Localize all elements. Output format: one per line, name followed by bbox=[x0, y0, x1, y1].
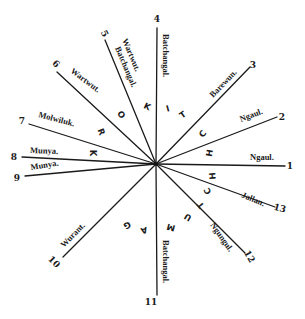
ray-number: 3 bbox=[250, 60, 256, 70]
radial-diagram: 12345678910111213 Ngaul.Ngaul.Barewun.Ba… bbox=[0, 0, 305, 319]
arc-letter: H bbox=[204, 149, 215, 158]
ray-label: Molwiluk. bbox=[37, 109, 75, 128]
arc-letter: U bbox=[182, 211, 193, 223]
arc-letter: O bbox=[115, 109, 127, 121]
ray-line-3 bbox=[156, 67, 250, 164]
arc-letter: T bbox=[177, 109, 188, 121]
ray-label: Ngaul. bbox=[238, 106, 264, 124]
ray-line-10 bbox=[63, 164, 156, 257]
ray-number: 9 bbox=[14, 173, 20, 183]
ray-label: Jallan. bbox=[240, 190, 266, 209]
arc-letter: M bbox=[165, 222, 176, 234]
center-hub bbox=[154, 162, 158, 166]
ray-label: Wartwut. bbox=[69, 66, 103, 95]
arc-letter: C bbox=[197, 128, 209, 139]
ray-label: Wurant. bbox=[58, 220, 87, 249]
ray-line-4 bbox=[156, 28, 157, 164]
arc-letter: H bbox=[207, 172, 218, 180]
ray-number: 4 bbox=[154, 14, 160, 24]
arc-letter: T bbox=[195, 200, 207, 211]
arc-letter: A bbox=[139, 225, 148, 236]
arc-letter: I bbox=[165, 103, 171, 113]
arc-letter: C bbox=[202, 186, 214, 196]
ray-number: 2 bbox=[279, 112, 285, 122]
ray-number: 1 bbox=[287, 161, 293, 171]
ray-number: 12 bbox=[242, 249, 257, 265]
ray-number: 6 bbox=[50, 58, 62, 70]
ray-number: 8 bbox=[11, 152, 17, 162]
ray-number: 7 bbox=[19, 116, 25, 126]
ray-number: 13 bbox=[272, 202, 287, 215]
arc-letter: K bbox=[88, 150, 98, 157]
ray-line-1 bbox=[156, 164, 285, 166]
ray-label: Munya. bbox=[30, 145, 58, 156]
ray-label: Ngungul. bbox=[208, 220, 235, 253]
ray-label: Ngaul. bbox=[250, 152, 274, 162]
ray-label: Batchangal. bbox=[161, 34, 171, 77]
ray-label: Munya. bbox=[30, 158, 59, 172]
ray-label: Batchangal. bbox=[161, 240, 171, 283]
ray-number: 11 bbox=[145, 297, 158, 307]
ray-number: 10 bbox=[46, 254, 62, 270]
arc-letter: K bbox=[142, 101, 153, 113]
ray-number: 5 bbox=[99, 28, 111, 38]
arc-letter: G bbox=[122, 219, 133, 231]
arc-letter: R bbox=[96, 127, 108, 137]
ray-line-11 bbox=[156, 164, 157, 295]
